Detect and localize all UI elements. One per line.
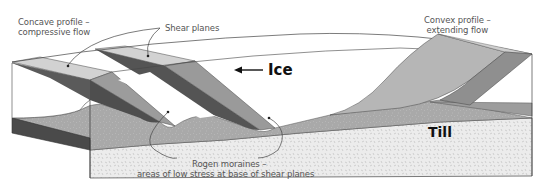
label-rogen-moraines: Rogen moraines – areas of low stress at … xyxy=(142,159,272,179)
concave-line-1: Concave profile – xyxy=(18,17,90,27)
ice-flow-arrow-icon xyxy=(234,67,263,74)
label-till: Till xyxy=(428,124,452,140)
rogen-line-2: areas of low stress at base of shear pla… xyxy=(137,169,267,179)
label-convex-profile: Convex profile – extending flow xyxy=(424,15,491,35)
label-ice: Ice xyxy=(268,62,293,78)
label-concave-profile: Concave profile – compressive flow xyxy=(18,17,90,37)
label-shear-planes: Shear planes xyxy=(165,23,219,33)
concave-line-2: compressive flow xyxy=(18,27,90,37)
convex-line-1: Convex profile – xyxy=(424,15,491,25)
rogen-line-1: Rogen moraines – xyxy=(142,159,272,169)
shear-planes-text: Shear planes xyxy=(165,23,219,33)
convex-line-2: extending flow xyxy=(424,25,491,35)
